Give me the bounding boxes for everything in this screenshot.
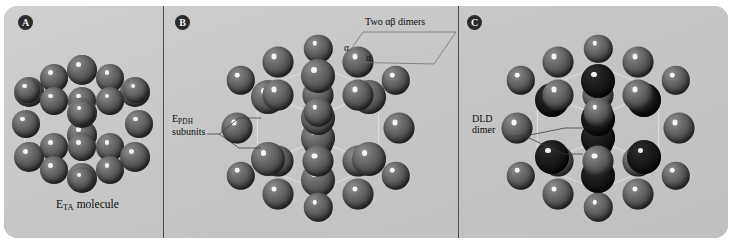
subunit-sphere — [383, 113, 414, 144]
subunit-sphere — [663, 113, 694, 144]
subunit-sphere — [303, 146, 334, 177]
caption-a-subscript: TA — [63, 203, 74, 212]
panel-label-a: A — [18, 15, 33, 30]
subunit-sphere — [535, 140, 569, 174]
subunit-sphere — [120, 142, 150, 172]
subunit-sphere — [226, 161, 255, 190]
subunit-sphere — [352, 142, 386, 176]
dld-line1: DLD — [472, 113, 493, 124]
subunit-sphere — [583, 146, 614, 177]
subunit-sphere — [304, 193, 333, 222]
subunit-sphere — [623, 46, 654, 77]
greek-alpha-1: α — [344, 43, 349, 53]
subunit-sphere — [262, 79, 293, 110]
greek-alpha-2: α — [366, 53, 371, 63]
subunit-sphere — [623, 179, 654, 210]
subunit-sphere — [68, 133, 96, 161]
subunit-sphere — [123, 78, 149, 104]
subunit-sphere — [506, 66, 535, 95]
subunit-sphere — [381, 161, 410, 190]
subunit-sphere — [343, 179, 374, 210]
subunit-sphere — [343, 79, 374, 110]
subunit-sphere — [226, 66, 255, 95]
subunit-sphere — [96, 87, 124, 115]
subunit-sphere — [502, 113, 533, 144]
subunit-sphere — [301, 59, 335, 93]
caption-a-prefix: E — [56, 198, 63, 210]
subunit-sphere — [542, 46, 573, 77]
subunit-sphere — [584, 193, 613, 222]
subunit-sphere — [584, 34, 613, 63]
annotation-epdh-subunits: EPDHsubunits — [172, 113, 205, 137]
panel-label-c: C — [467, 15, 482, 30]
subunit-sphere — [581, 64, 615, 98]
figure-root: A ETA molecule B EPDHsubunits Two αβ dim… — [0, 0, 732, 245]
dld-line2: dimer — [472, 124, 495, 135]
subunit-sphere — [96, 156, 124, 184]
subunit-sphere — [542, 79, 573, 110]
caption-a-suffix: molecule — [74, 198, 119, 210]
epdh-line2: subunits — [172, 126, 205, 137]
subunit-sphere — [506, 161, 535, 190]
subunit-sphere — [12, 110, 40, 138]
subunit-sphere — [125, 110, 153, 138]
subunit-sphere — [262, 46, 293, 77]
annotation-dld-dimer: DLDdimer — [472, 113, 495, 135]
panel-label-b: B — [175, 15, 190, 30]
subunit-sphere — [40, 156, 68, 184]
subunit-sphere — [661, 161, 690, 190]
subunit-sphere — [661, 66, 690, 95]
panel-b-model — [163, 0, 458, 245]
subunit-sphere — [542, 179, 573, 210]
subunit-sphere — [251, 142, 285, 176]
subunit-sphere — [222, 113, 253, 144]
subunit-sphere — [40, 87, 68, 115]
epdh-subscript: PDH — [178, 118, 193, 126]
subunit-sphere — [627, 140, 661, 174]
subunit-sphere — [69, 100, 95, 126]
subunit-sphere — [584, 98, 613, 127]
subunit-sphere — [623, 79, 654, 110]
panel-divider-a-b — [163, 6, 164, 238]
panel-c-model — [458, 0, 732, 245]
annotation-two-ab-dimers: Two αβ dimers — [365, 16, 425, 27]
subunit-sphere — [381, 66, 410, 95]
subunit-sphere — [69, 167, 95, 193]
subunit-sphere — [15, 78, 41, 104]
panel-divider-b-c — [458, 6, 459, 238]
subunit-sphere — [304, 98, 333, 127]
subunit-sphere — [262, 179, 293, 210]
subunit-sphere — [67, 55, 97, 85]
panel-a-caption: ETA molecule — [56, 198, 119, 212]
